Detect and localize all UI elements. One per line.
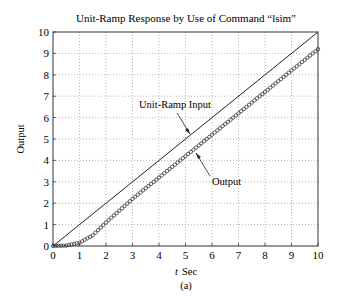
arrowhead-icon [196,153,201,159]
y-axis-label: Output [15,124,26,153]
x-tick-label: 5 [183,249,189,261]
x-axis-label-unit: Sec [182,266,198,277]
y-tick-label: 6 [44,112,50,124]
x-tick-label: 0 [50,249,56,261]
ramp-response-chart: Unit-Ramp Response by Use of Command “ls… [0,0,344,302]
x-axis-label-var: t [175,266,179,277]
x-tick-label: 3 [130,249,136,261]
x-tick-label: 2 [103,249,109,261]
x-tick-label: 1 [77,249,83,261]
y-tick-label: 3 [44,176,50,188]
y-tick-label: 1 [44,219,50,231]
x-tick-label: 4 [156,249,162,261]
y-tick-label: 5 [44,133,50,145]
y-tick-label: 7 [44,90,50,102]
x-tick-label: 9 [289,249,295,261]
y-tick-label: 2 [44,197,50,209]
x-tick-label: 6 [209,249,215,261]
y-tick-label: 0 [44,240,50,252]
y-tick-label: 4 [44,154,50,166]
annotation-unit-ramp-input: Unit-Ramp Input [139,99,211,110]
x-tick-label: 10 [313,249,325,261]
y-tick-label: 8 [44,69,50,81]
chart-title: Unit-Ramp Response by Use of Command “ls… [76,12,296,24]
y-tick-label: 9 [44,47,50,59]
figure-caption: (a) [180,280,192,292]
x-axis-label: tSec [175,266,197,277]
annotation-output: Output [212,176,241,187]
x-tick-label: 8 [262,249,268,261]
x-tick-label: 7 [236,249,242,261]
y-tick-label: 10 [38,26,50,38]
